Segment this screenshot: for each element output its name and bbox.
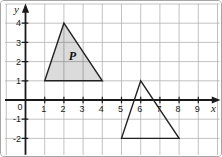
y-tick-label-3: 3 bbox=[16, 38, 21, 48]
y-tick-label-4: 4 bbox=[16, 18, 21, 28]
grid bbox=[5, 4, 220, 157]
triangle-unlabeled-shape bbox=[122, 81, 180, 139]
origin-label: 0 bbox=[17, 102, 22, 112]
y-tick-label--2: -2 bbox=[13, 134, 21, 144]
y-tick-label--1: -1 bbox=[13, 114, 21, 124]
x-tick-label-3: 3 bbox=[80, 104, 85, 114]
y-axis-label: y bbox=[13, 3, 19, 15]
x-axis-label: x bbox=[210, 102, 216, 114]
x-tick-label-2: 2 bbox=[60, 104, 65, 114]
y-axis-arrowhead bbox=[22, 4, 29, 13]
axes bbox=[5, 4, 220, 155]
tick-labels: 123456789-2-112340xy bbox=[13, 3, 216, 144]
x-tick-label-5: 5 bbox=[118, 104, 123, 114]
x-tick-label-9: 9 bbox=[195, 104, 200, 114]
figure-svg: 123456789-2-112340xyP bbox=[1, 1, 222, 157]
x-tick-label-8: 8 bbox=[176, 104, 181, 114]
y-tick-label-1: 1 bbox=[16, 76, 21, 86]
x-tick-label-1: 1 bbox=[41, 104, 46, 114]
y-tick-label-2: 2 bbox=[16, 57, 21, 67]
coordinate-grid-figure: 123456789-2-112340xyP bbox=[0, 0, 222, 157]
triangle-p-label: P bbox=[69, 49, 77, 63]
x-tick-label-6: 6 bbox=[137, 104, 142, 114]
x-tick-label-4: 4 bbox=[99, 104, 104, 114]
